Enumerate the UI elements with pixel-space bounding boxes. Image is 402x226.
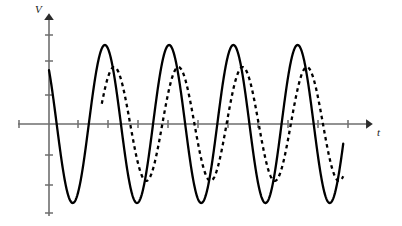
- t-axis-label: t: [377, 127, 380, 138]
- waveform-figure: V t: [0, 0, 402, 226]
- plot-canvas: [0, 0, 402, 226]
- v-axis-label: V: [35, 4, 42, 15]
